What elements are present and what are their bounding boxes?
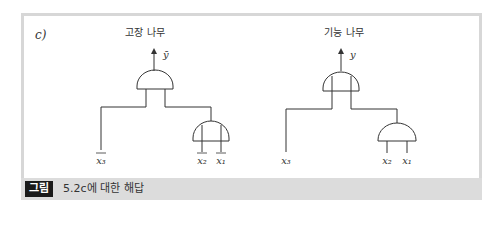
part-label: c) (35, 28, 47, 42)
function-input-x3: x₃ (281, 155, 291, 166)
function-input-x2: x₂ (382, 155, 392, 166)
fault-input-x3: x₃ (96, 155, 106, 166)
function-input-x1: x₁ (402, 155, 412, 166)
function-tree-title: 기능 나무 (324, 27, 363, 38)
fault-input-x1: x₁ (216, 155, 226, 166)
caption-badge: 그림 (25, 181, 53, 197)
figure-caption-bar: 그림 5.2c에 대한 해답 (21, 178, 482, 200)
fault-sub-and-gate-icon (193, 121, 229, 141)
caption-text: 5.2c에 대한 해답 (63, 181, 144, 197)
fault-tree-title: 고장 나무 (125, 27, 164, 38)
fault-output-label: ȳ (162, 49, 169, 60)
fault-input-x2: x₂ (197, 155, 207, 166)
fault-top-and-gate-icon (137, 70, 173, 89)
function-top-and-gate-icon (323, 72, 359, 91)
function-tree: 기능 나무 y x₃ x₂ x₁ (281, 27, 416, 166)
function-sub-and-gate-icon (378, 123, 416, 141)
fault-tree: 고장 나무 ȳ x₃ x₂ x₁ (96, 27, 229, 166)
function-output-label: y (349, 49, 356, 60)
